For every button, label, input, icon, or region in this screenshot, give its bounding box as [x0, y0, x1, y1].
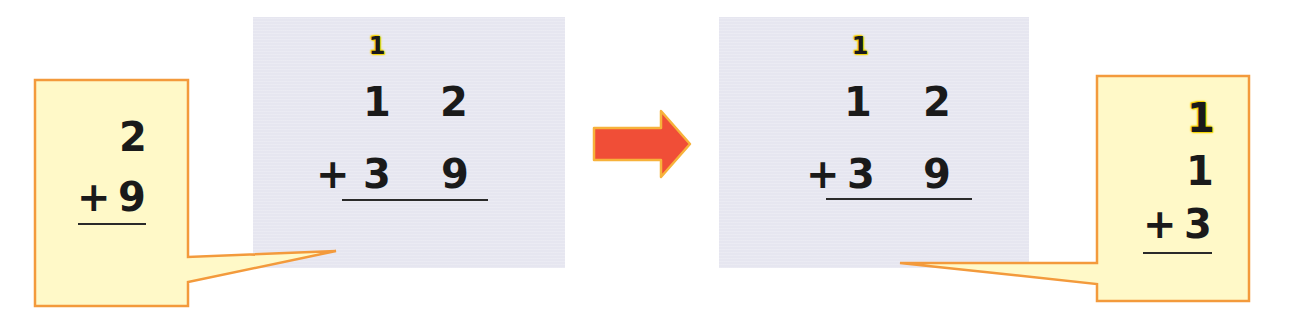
left-callout-row2-ones: 9 [117, 177, 147, 217]
right-row2-ones: 9 [922, 154, 952, 194]
left-addition-panel [253, 17, 565, 268]
right-callout-carry-digit: 1 [1186, 98, 1216, 138]
right-carry-digit: 1 [850, 34, 870, 58]
right-callout-row2-tens: 3 [1183, 204, 1213, 244]
right-callout-sum-line [1143, 252, 1212, 254]
left-row2-operator: + [316, 154, 344, 194]
left-row2-ones: 9 [440, 154, 470, 194]
right-row2-operator: + [806, 154, 834, 194]
left-row1-ones: 2 [439, 82, 469, 122]
callouts-and-arrow [0, 0, 1301, 325]
right-callout-row1-tens: 1 [1185, 151, 1215, 191]
left-carry-digit: 1 [367, 34, 387, 58]
right-row1-ones: 2 [922, 82, 952, 122]
left-callout-row2-operator: + [77, 177, 105, 217]
right-callout-row2-operator: + [1143, 204, 1171, 244]
right-panel-sum-line [826, 198, 972, 200]
right-row2-tens: 3 [846, 154, 876, 194]
left-callout-row1-ones: 2 [118, 117, 148, 157]
left-panel-sum-line [342, 199, 488, 201]
column-addition-diagram: 1 1 2 + 3 9 2 + 9 1 1 2 + 3 9 1 1 + 3 [0, 0, 1301, 325]
left-row1-tens: 1 [362, 82, 392, 122]
left-callout-sum-line [78, 223, 146, 225]
right-row1-tens: 1 [843, 82, 873, 122]
right-arrow-icon [594, 111, 690, 177]
right-addition-panel [719, 17, 1029, 268]
left-row2-tens: 3 [362, 154, 392, 194]
